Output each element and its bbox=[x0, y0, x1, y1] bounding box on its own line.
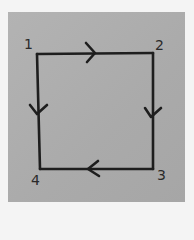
node-label-1: 1 bbox=[24, 37, 33, 51]
node-label-3: 3 bbox=[157, 168, 166, 182]
node-label-2: 2 bbox=[155, 38, 164, 52]
node-label-4: 4 bbox=[31, 173, 40, 187]
